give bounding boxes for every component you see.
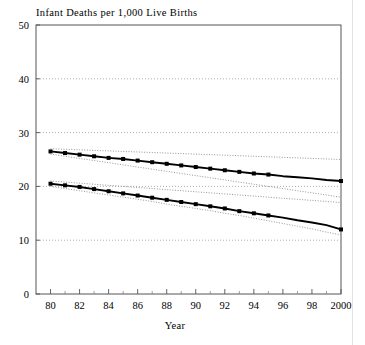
- svg-text:80: 80: [45, 300, 56, 311]
- chart-svg: 01020304050 808284868890929496982000: [0, 0, 365, 345]
- svg-text:10: 10: [19, 235, 30, 246]
- x-axis-ticks: [51, 289, 341, 294]
- svg-text:92: 92: [220, 300, 231, 311]
- svg-text:86: 86: [132, 300, 143, 311]
- confidence-bands: [51, 149, 341, 235]
- svg-text:82: 82: [74, 300, 85, 311]
- svg-text:50: 50: [19, 20, 30, 31]
- x-axis-tick-labels: 808284868890929496982000: [45, 300, 351, 311]
- svg-text:96: 96: [278, 300, 289, 311]
- y-axis-tick-labels: 01020304050: [19, 20, 30, 300]
- svg-text:0: 0: [24, 289, 29, 300]
- svg-text:2000: 2000: [331, 300, 352, 311]
- svg-text:84: 84: [103, 300, 114, 311]
- svg-text:98: 98: [307, 300, 318, 311]
- svg-text:30: 30: [19, 128, 30, 139]
- svg-text:40: 40: [19, 74, 30, 85]
- svg-text:90: 90: [191, 300, 202, 311]
- x-axis-title: Year: [0, 320, 350, 331]
- y-axis-ticks: [36, 25, 40, 294]
- data-point-markers: [49, 149, 343, 231]
- grid-lines: [37, 79, 340, 240]
- axis-frame: [36, 25, 341, 294]
- figure-container: Infant Deaths per 1,000 Live Births 0102…: [0, 0, 365, 345]
- svg-text:20: 20: [19, 181, 30, 192]
- svg-text:88: 88: [161, 300, 172, 311]
- svg-text:94: 94: [249, 300, 260, 311]
